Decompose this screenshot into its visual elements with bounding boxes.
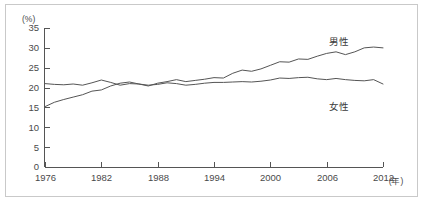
x-tick-label: 1988 [148, 172, 169, 183]
y-axis-unit-label: (%) [22, 14, 35, 24]
data-series-group [45, 47, 383, 107]
x-tick-label: 1976 [35, 172, 56, 183]
y-tick-label: 30 [28, 42, 39, 53]
y-tick-label: 0 [34, 161, 39, 172]
y-tick-labels: 35302520151050 [28, 22, 39, 172]
x-tick-label: 1994 [204, 172, 225, 183]
line-chart: 35302520151050 (%) 197619821988199420002… [0, 0, 424, 203]
x-tick-label: 2000 [260, 172, 281, 183]
x-axis-group: 1976198219881994200020062012 (年) [35, 162, 404, 186]
x-tick-label: 1982 [91, 172, 112, 183]
series-label-female: 女性 [329, 101, 349, 112]
x-tick-marks [46, 162, 384, 167]
y-tick-label: 5 [34, 142, 39, 153]
series-label-male: 男性 [329, 36, 349, 47]
y-tick-label: 25 [28, 62, 39, 73]
y-tick-label: 15 [28, 102, 39, 113]
y-tick-label: 35 [28, 22, 39, 33]
x-tick-label: 2006 [317, 172, 338, 183]
y-tick-label: 10 [28, 122, 39, 133]
series-line-male [45, 47, 383, 107]
y-tick-label: 20 [28, 82, 39, 93]
y-axis-group: 35302520151050 (%) [22, 14, 50, 172]
y-tick-marks [45, 29, 50, 168]
series-line-female [45, 77, 383, 85]
x-axis-unit-label: (年) [389, 176, 404, 186]
x-tick-labels: 1976198219881994200020062012 [35, 172, 394, 183]
